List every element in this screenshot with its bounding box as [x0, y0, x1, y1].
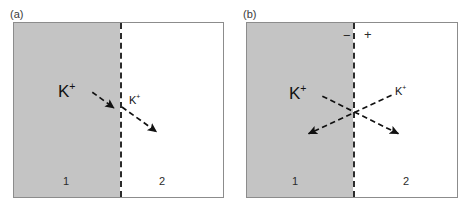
compartment-2-label-a: 2 [159, 175, 165, 187]
compartment-1-label-b: 1 [292, 175, 298, 187]
panel-b: − + 1 2 K+ K+ [246, 22, 458, 198]
potassium-ion-label-right-a: K+ [129, 95, 140, 106]
potassium-ion-label-right-b: K+ [395, 86, 406, 97]
figure-container: (a) 1 2 K+ K+ (b) − + 1 2 K+ K+ [0, 0, 468, 211]
panel-b-label: (b) [243, 8, 256, 20]
membrane-dashed-line-a [120, 23, 122, 197]
positive-charge-sign-b: + [364, 28, 372, 41]
compartment-1-shading-b [247, 23, 353, 197]
negative-charge-sign-b: − [343, 29, 351, 42]
efflux-arrow-a [122, 107, 157, 132]
compartment-2-label-b: 2 [403, 175, 409, 187]
potassium-ion-label-left-a: K+ [58, 83, 76, 100]
potassium-ion-label-left-b: K+ [289, 85, 307, 102]
membrane-dashed-line-b [353, 23, 355, 197]
panel-a-label: (a) [10, 8, 23, 20]
compartment-1-label-a: 1 [63, 175, 69, 187]
compartment-1-shading-a [14, 23, 120, 197]
panel-a: 1 2 K+ K+ [13, 22, 224, 198]
